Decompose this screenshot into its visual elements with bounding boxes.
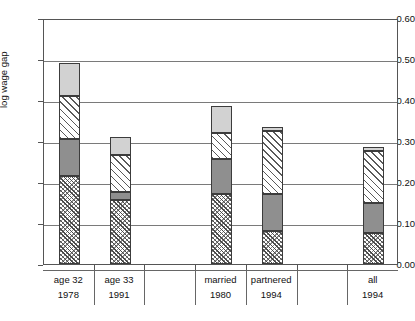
bar-segment-segment-1-dense-hatch xyxy=(363,233,384,264)
category-year: 1991 xyxy=(108,289,129,301)
bar-segment-segment-3-diagonal-hatch xyxy=(262,131,283,195)
x-category-label: partnered1994 xyxy=(246,270,297,305)
bar-segment-segment-1-dense-hatch xyxy=(211,194,232,264)
bar-segment-segment-1-dense-hatch xyxy=(59,176,80,264)
bar-segment-segment-3-diagonal-hatch xyxy=(211,133,232,160)
bar-age-33 xyxy=(110,18,131,264)
bar-partnered xyxy=(262,18,283,264)
bar-segment-segment-2-dark-gray xyxy=(262,194,283,231)
bar-segment-segment-4-light-gray xyxy=(110,137,131,155)
x-category-label: all1994 xyxy=(347,270,398,305)
x-axis: age 321978age 331991married1980partnered… xyxy=(43,265,398,305)
bar-segment-segment-4-light-gray xyxy=(211,106,232,133)
y-axis-title: log wage gap xyxy=(0,51,9,108)
bar-segment-segment-3-diagonal-hatch xyxy=(363,151,384,202)
bar-segment-segment-2-dark-gray xyxy=(59,139,80,176)
x-category-empty xyxy=(297,270,348,305)
category-name: age 32 xyxy=(54,274,83,286)
bar-age-32 xyxy=(59,18,80,264)
x-category-label: married1980 xyxy=(195,270,246,305)
category-name: all xyxy=(368,274,378,286)
bar-segment-segment-4-light-gray xyxy=(363,147,384,151)
category-name: age 33 xyxy=(105,274,134,286)
bar-segment-segment-3-diagonal-hatch xyxy=(110,155,131,192)
category-year: 1980 xyxy=(210,289,231,301)
bar-segment-segment-4-light-gray xyxy=(262,127,283,131)
category-year: 1978 xyxy=(58,289,79,301)
bar-segment-segment-1-dense-hatch xyxy=(110,200,131,264)
bar-segment-segment-2-dark-gray xyxy=(363,203,384,234)
bar-segment-segment-1-dense-hatch xyxy=(262,231,283,264)
category-name: partnered xyxy=(251,274,292,286)
x-category-label: age 321978 xyxy=(43,270,94,305)
category-name: married xyxy=(204,274,236,286)
bar-all xyxy=(363,18,384,264)
bar-segment-segment-4-light-gray xyxy=(59,63,80,96)
stacked-bar-chart: log wage gap 0.000.100.200.300.400.500.6… xyxy=(0,0,415,321)
x-category-empty xyxy=(144,270,195,305)
bar-segment-segment-2-dark-gray xyxy=(110,192,131,200)
bar-segment-segment-3-diagonal-hatch xyxy=(59,96,80,139)
category-year: 1994 xyxy=(261,289,282,301)
bar-segment-segment-2-dark-gray xyxy=(211,159,232,194)
bar-married xyxy=(211,18,232,264)
plot-area xyxy=(43,19,398,265)
x-category-label: age 331991 xyxy=(94,270,145,305)
category-year: 1994 xyxy=(362,289,383,301)
